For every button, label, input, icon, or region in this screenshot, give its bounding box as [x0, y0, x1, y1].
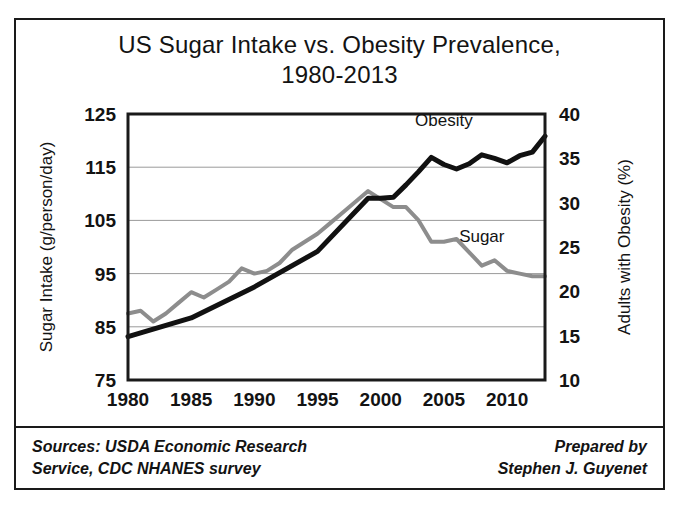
x-tick-label: 1980: [107, 389, 149, 410]
y2-tick-label: 20: [559, 281, 580, 302]
x-tick-label: 1995: [296, 389, 339, 410]
y2-tick-label: 25: [559, 237, 581, 258]
gridlines: [128, 167, 545, 327]
y2-tick-label: 40: [559, 104, 580, 125]
y-tick-label: 75: [95, 370, 117, 391]
y2-tick-label: 10: [559, 370, 580, 391]
chart-footer: Sources: USDA Economic Research Service,…: [16, 426, 663, 488]
y-tick-label: 115: [85, 157, 116, 178]
y2-tick-label: 30: [559, 193, 580, 214]
x-axis-tick-labels: 1980198519901995200020052010: [107, 389, 528, 410]
plot-area-wrapper: 1980198519901995200020052010 75859510511…: [16, 20, 667, 492]
y-tick-label: 105: [84, 210, 116, 231]
y2-tick-label: 35: [559, 148, 581, 169]
y-tick-label: 125: [84, 104, 116, 125]
y-axis-left-tick-labels: 758595105115125: [84, 104, 116, 391]
sources-line-2: Service, CDC NHANES survey: [32, 458, 307, 480]
prepared-by-note: Prepared by Stephen J. Guyenet: [498, 436, 647, 480]
x-tick-label: 1990: [233, 389, 275, 410]
y2-tick-label: 15: [559, 326, 581, 347]
y-tick-label: 95: [95, 264, 117, 285]
chart-figure: US Sugar Intake vs. Obesity Prevalence, …: [14, 18, 665, 490]
y-axis-left-title: Sugar Intake (g/person/day): [37, 142, 56, 353]
prepared-line-2: Stephen J. Guyenet: [498, 458, 647, 480]
sugar-line: [128, 191, 545, 321]
x-tick-label: 1985: [170, 389, 213, 410]
y-axis-right-title: Adults with Obesity (%): [615, 159, 634, 335]
y-tick-label: 85: [95, 317, 117, 338]
sources-note: Sources: USDA Economic Research Service,…: [32, 436, 307, 480]
sources-line-1: Sources: USDA Economic Research: [32, 438, 307, 455]
x-tick-label: 2000: [360, 389, 402, 410]
series-label-sugar: Sugar: [459, 227, 505, 246]
series-label-obesity: Obesity: [415, 111, 473, 130]
prepared-line-1: Prepared by: [555, 438, 647, 455]
x-tick-label: 2010: [486, 389, 528, 410]
y-axis-right-tick-labels: 10152025303540: [559, 104, 581, 391]
chart-svg: 1980198519901995200020052010 75859510511…: [16, 20, 667, 492]
x-tick-label: 2005: [423, 389, 466, 410]
